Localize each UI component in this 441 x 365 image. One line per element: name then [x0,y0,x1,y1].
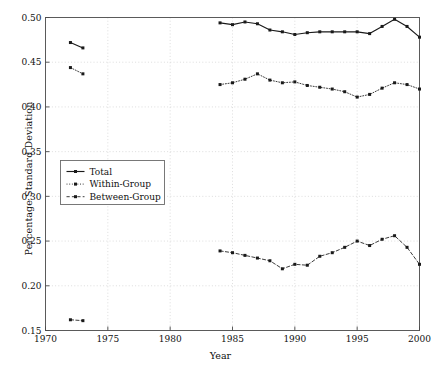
series-within-group [69,66,421,99]
series-total [69,18,421,50]
svg-text:0.20: 0.20 [21,281,41,291]
legend-label: Total [90,167,113,177]
chart-figure: Percentage Standard Deviation Year 19701… [0,0,441,365]
svg-text:0.15: 0.15 [21,326,41,336]
chart-legend[interactable]: TotalWithin-GroupBetween-Group [61,161,165,205]
y-axis-title: Percentage Standard Deviation [23,78,34,278]
svg-text:1995: 1995 [346,334,369,344]
svg-text:1975: 1975 [96,334,119,344]
plot-area: 19701975198019851990199520000.150.200.25… [0,0,441,365]
svg-text:0.45: 0.45 [21,57,41,67]
svg-text:0.50: 0.50 [21,13,41,23]
legend-label: Between-Group [90,192,161,202]
series-between-group [69,234,421,322]
svg-text:1985: 1985 [221,334,244,344]
x-axis-title: Year [0,350,441,361]
svg-text:1980: 1980 [159,334,182,344]
svg-text:1990: 1990 [283,334,306,344]
legend-label: Within-Group [90,179,152,189]
svg-text:2000: 2000 [408,334,431,344]
